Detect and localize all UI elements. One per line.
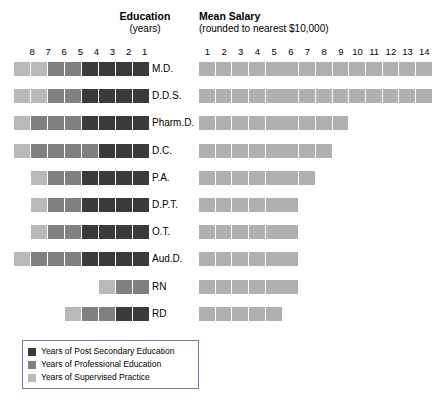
education-segment-dark <box>116 116 132 130</box>
salary-segment <box>366 62 382 76</box>
salary-segment <box>349 89 365 103</box>
row-label: D.P.T. <box>152 198 178 212</box>
education-segment-med <box>65 225 81 239</box>
education-segment-dark <box>82 225 98 239</box>
salary-segment <box>266 280 282 294</box>
education-tick-4: 4 <box>88 45 104 58</box>
chart-row: Pharm.D. <box>0 114 440 141</box>
salary-segment <box>333 116 349 130</box>
salary-segment <box>199 225 215 239</box>
education-bar <box>14 252 149 266</box>
education-segment-dark <box>82 62 98 76</box>
education-segment-med <box>65 171 81 185</box>
salary-segment <box>282 171 298 185</box>
salary-segment <box>232 62 248 76</box>
education-bar <box>14 89 149 103</box>
row-label: D.C. <box>152 144 172 158</box>
salary-segment <box>249 144 265 158</box>
salary-segment <box>249 307 265 321</box>
legend-item: Years of Post Secondary Education <box>28 345 193 358</box>
chart-rows: M.D.D.D.S.Pharm.D.D.C.P.A.D.P.T.O.T.Aud.… <box>0 60 440 332</box>
education-segment-light <box>14 116 30 130</box>
salary-tick-4: 4 <box>249 45 266 58</box>
salary-tick-6: 6 <box>282 45 299 58</box>
education-segment-dark <box>99 62 115 76</box>
salary-segment <box>266 307 282 321</box>
education-bar <box>31 198 149 212</box>
salary-segment <box>333 89 349 103</box>
chart-row: D.D.S. <box>0 87 440 114</box>
salary-segment <box>416 62 432 76</box>
salary-tick-12: 12 <box>383 45 400 58</box>
education-segment-dark <box>116 252 132 266</box>
salary-segment <box>232 198 248 212</box>
education-bar <box>14 144 149 158</box>
education-segment-dark <box>99 171 115 185</box>
salary-tick-10: 10 <box>349 45 366 58</box>
salary-segment <box>282 116 298 130</box>
salary-bar <box>199 252 298 266</box>
salary-bar <box>199 144 332 158</box>
education-segment-dark <box>116 144 132 158</box>
salary-segment <box>249 198 265 212</box>
salary-segment <box>199 307 215 321</box>
education-segment-light <box>31 62 47 76</box>
salary-tick-8: 8 <box>316 45 333 58</box>
education-segment-dark <box>133 252 149 266</box>
education-bar <box>31 171 149 185</box>
salary-bar <box>199 225 298 239</box>
salary-segment <box>232 171 248 185</box>
education-panel-subtitle: (years) <box>90 23 200 34</box>
education-segment-med <box>65 198 81 212</box>
salary-segment <box>266 198 282 212</box>
chart-row: O.T. <box>0 223 440 250</box>
salary-segment <box>249 89 265 103</box>
salary-segment <box>266 225 282 239</box>
salary-segment <box>199 116 215 130</box>
salary-segment <box>232 307 248 321</box>
education-segment-light <box>65 307 81 321</box>
salary-segment <box>232 280 248 294</box>
salary-segment <box>266 116 282 130</box>
salary-segment <box>416 89 432 103</box>
salary-segment <box>383 62 399 76</box>
salary-segment <box>249 225 265 239</box>
salary-segment <box>199 144 215 158</box>
education-axis-ticks: 87654321 <box>24 45 153 58</box>
salary-segment <box>199 62 215 76</box>
salary-segment <box>316 144 332 158</box>
education-segment-med <box>48 225 64 239</box>
education-segment-dark <box>133 198 149 212</box>
education-tick-5: 5 <box>72 45 88 58</box>
education-segment-light <box>14 144 30 158</box>
salary-tick-11: 11 <box>366 45 383 58</box>
education-panel-title: Education <box>90 10 200 22</box>
education-segment-med <box>65 62 81 76</box>
education-segment-light <box>14 89 30 103</box>
salary-segment <box>282 89 298 103</box>
salary-segment <box>232 116 248 130</box>
education-segment-dark <box>116 307 132 321</box>
salary-bar <box>199 198 298 212</box>
salary-segment <box>216 252 232 266</box>
legend-item: Years of Supervised Practice <box>28 371 193 384</box>
education-segment-med <box>65 89 81 103</box>
salary-tick-9: 9 <box>333 45 350 58</box>
salary-panel-title: Mean Salary <box>199 10 260 22</box>
salary-segment <box>299 116 315 130</box>
education-segment-light <box>14 62 30 76</box>
salary-bar <box>199 62 432 76</box>
salary-bar <box>199 171 315 185</box>
education-segment-med <box>48 62 64 76</box>
education-segment-med <box>48 144 64 158</box>
education-segment-med <box>31 116 47 130</box>
salary-segment <box>216 62 232 76</box>
education-segment-dark <box>116 62 132 76</box>
salary-tick-14: 14 <box>416 45 433 58</box>
education-segment-med <box>82 307 98 321</box>
education-tick-6: 6 <box>56 45 72 58</box>
education-segment-med <box>48 89 64 103</box>
education-segment-med <box>31 144 47 158</box>
education-tick-7: 7 <box>40 45 56 58</box>
salary-tick-13: 13 <box>399 45 416 58</box>
